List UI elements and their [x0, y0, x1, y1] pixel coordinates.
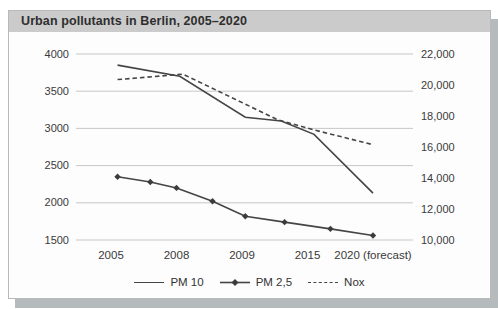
- series-nox: [118, 74, 373, 145]
- x-axis-label: 2020 (forecast): [334, 249, 412, 261]
- x-axis-labels: 20052008200920152020 (forecast): [98, 249, 412, 261]
- left-axis-tick: 4000: [45, 48, 69, 60]
- data-point-marker: [242, 213, 248, 219]
- x-axis-label: 2008: [164, 249, 190, 261]
- right-axis-tick: 18,000: [421, 110, 455, 122]
- left-axis-tick: 2000: [45, 196, 69, 208]
- x-axis-label: 2005: [98, 249, 124, 261]
- legend-label-pm10: PM 10: [170, 276, 203, 288]
- data-point-marker: [327, 226, 333, 232]
- gridlines: [76, 54, 413, 240]
- legend-item-nox: Nox: [308, 276, 364, 288]
- line-chart: 40003500300025002000150022,00020,00018,0…: [9, 32, 490, 274]
- data-point-marker: [281, 219, 287, 225]
- right-axis-tick: 14,000: [421, 172, 455, 184]
- chart-figure: Urban pollutants in Berlin, 2005–2020 40…: [8, 10, 491, 299]
- data-point-marker: [370, 232, 376, 238]
- series-line: [118, 177, 373, 236]
- left-axis-tick: 3000: [45, 122, 69, 134]
- left-axis-tick: 1500: [45, 234, 69, 246]
- legend-label-nox: Nox: [344, 276, 364, 288]
- chart-title-bar: Urban pollutants in Berlin, 2005–2020: [9, 11, 490, 32]
- left-axis-tick: 2500: [45, 159, 69, 171]
- right-axis-tick: 10,000: [421, 234, 455, 246]
- data-point-marker: [173, 185, 179, 191]
- legend-item-pm25: PM 2,5: [220, 276, 292, 288]
- series-pm-2-5: [114, 174, 376, 239]
- series-pm-10: [118, 65, 373, 193]
- right-axis-tick: 20,000: [421, 79, 455, 91]
- left-axis-tick: 3500: [45, 85, 69, 97]
- pm25-line-marker-sample-icon: [220, 278, 250, 287]
- series-line: [118, 74, 373, 145]
- legend-item-pm10: PM 10: [134, 276, 203, 288]
- right-axis-tick-labels: 22,00020,00018,00016,00014,00012,00010,0…: [421, 48, 455, 246]
- data-point-marker: [147, 179, 153, 185]
- chart-title: Urban pollutants in Berlin, 2005–2020: [21, 14, 247, 28]
- legend-label-pm25: PM 2,5: [256, 276, 292, 288]
- x-axis-label: 2015: [295, 249, 321, 261]
- chart-legend: PM 10 PM 2,5 Nox: [9, 274, 490, 290]
- nox-dashed-line-sample-icon: [308, 282, 338, 283]
- x-axis-label: 2009: [229, 249, 255, 261]
- left-axis-tick-labels: 400035003000250020001500: [45, 48, 69, 246]
- data-point-marker: [209, 198, 215, 204]
- pm10-line-sample-icon: [134, 282, 164, 283]
- right-axis-tick: 22,000: [421, 48, 455, 60]
- right-axis-tick: 16,000: [421, 141, 455, 153]
- right-axis-tick: 12,000: [421, 203, 455, 215]
- data-point-marker: [114, 174, 120, 180]
- series-line: [118, 65, 373, 193]
- page: Urban pollutants in Berlin, 2005–2020 40…: [0, 0, 498, 309]
